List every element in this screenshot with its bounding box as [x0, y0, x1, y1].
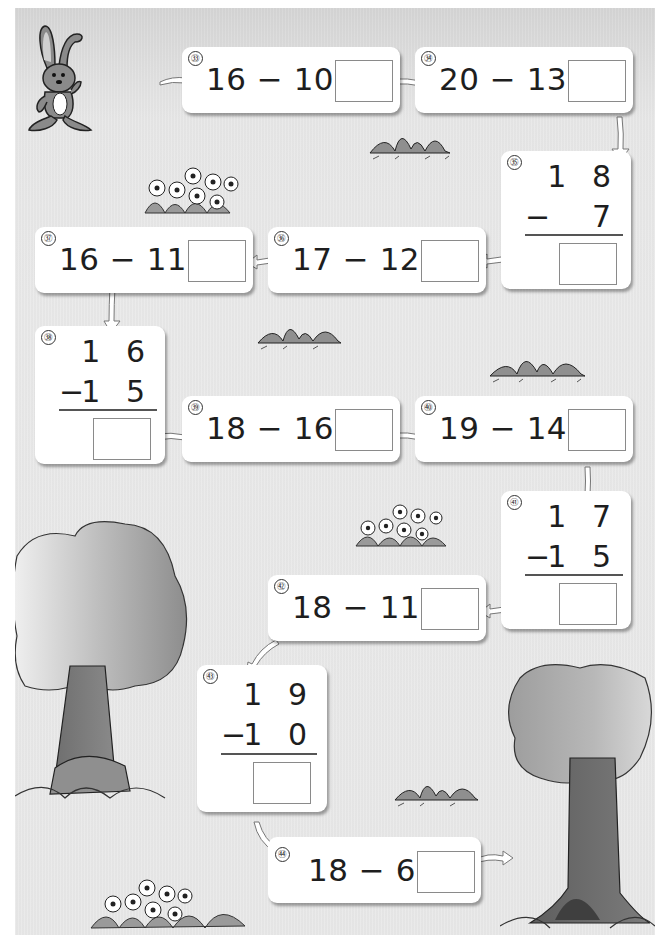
problem-bottom-41: 1 5	[547, 539, 619, 575]
grass-tuft-illustration	[485, 344, 595, 386]
problem-number-41: ㊶	[507, 495, 522, 510]
answer-box-39[interactable]	[335, 409, 393, 451]
problem-card-37: ㊲ 16 − 11 =	[35, 227, 253, 293]
grass-tuft-illustration	[253, 313, 353, 353]
problem-card-40: ㊵ 19 − 14 =	[415, 396, 633, 462]
answer-box-41[interactable]	[559, 583, 617, 625]
answer-box-43[interactable]	[253, 762, 311, 804]
flower-bush-illustration	[348, 500, 463, 550]
problem-number-40: ㊵	[421, 400, 436, 415]
sum-line-38	[59, 409, 157, 411]
answer-box-37[interactable]	[188, 240, 246, 282]
problem-number-44: ㊹	[275, 847, 290, 862]
worksheet-page: ㉝ 16 − 10 = ㉞ 20 − 13 = ㉟ 1 8 − 7 ㊱ 17 −…	[15, 8, 655, 935]
sum-line-43	[221, 753, 317, 755]
problem-number-39: ㊴	[188, 400, 203, 415]
problem-operator-35: −	[525, 199, 550, 235]
problem-card-38: ㊳ 1 6 − 1 5	[35, 326, 165, 464]
problem-number-42: ㊷	[274, 579, 289, 594]
problem-top-41: 1 7	[547, 499, 619, 535]
problem-top-35: 1 8	[547, 159, 619, 195]
problem-card-41: ㊶ 1 7 − 1 5	[501, 491, 631, 629]
problem-card-34: ㉞ 20 − 13 =	[415, 47, 633, 113]
answer-box-38[interactable]	[93, 418, 151, 460]
problem-number-43: ㊸	[203, 669, 218, 684]
problem-bottom-35: 7	[592, 199, 619, 235]
problem-top-38: 1 6	[81, 334, 153, 370]
flower-bush-illustration	[85, 870, 255, 932]
answer-box-40[interactable]	[568, 409, 626, 451]
problem-card-39: ㊴ 18 − 16 =	[182, 396, 400, 462]
problem-number-37: ㊲	[41, 231, 56, 246]
sum-line-35	[525, 234, 623, 236]
problem-card-36: ㊱ 17 − 12 =	[268, 227, 486, 293]
sum-line-41	[525, 574, 623, 576]
problem-number-38: ㊳	[41, 330, 56, 345]
problem-card-33: ㉝ 16 − 10 =	[182, 47, 400, 113]
answer-box-42[interactable]	[421, 588, 479, 630]
tree-left-illustration	[15, 516, 190, 816]
grass-tuft-illustration	[390, 770, 490, 810]
answer-box-33[interactable]	[335, 60, 393, 102]
answer-box-36[interactable]	[421, 240, 479, 282]
problem-card-43: ㊸ 1 9 − 1 0	[197, 665, 327, 812]
problem-card-35: ㉟ 1 8 − 7	[501, 151, 631, 289]
problem-top-43: 1 9	[243, 677, 315, 713]
problem-number-36: ㊱	[274, 231, 289, 246]
problem-number-35: ㉟	[507, 155, 522, 170]
problem-card-42: ㊷ 18 − 11 =	[268, 575, 486, 641]
problem-card-44: ㊹ 18 − 6 =	[268, 837, 481, 903]
problem-number-34: ㉞	[421, 51, 436, 66]
problem-number-33: ㉝	[188, 51, 203, 66]
rabbit-illustration	[25, 20, 105, 135]
grass-tuft-illustration	[365, 123, 465, 163]
answer-box-44[interactable]	[417, 851, 475, 893]
answer-box-35[interactable]	[559, 243, 617, 285]
answer-box-34[interactable]	[568, 60, 626, 102]
problem-bottom-43: 1 0	[243, 717, 315, 753]
problem-bottom-38: 1 5	[81, 374, 153, 410]
flower-bush-illustration	[135, 158, 250, 218]
tree-right-illustration	[500, 658, 655, 935]
